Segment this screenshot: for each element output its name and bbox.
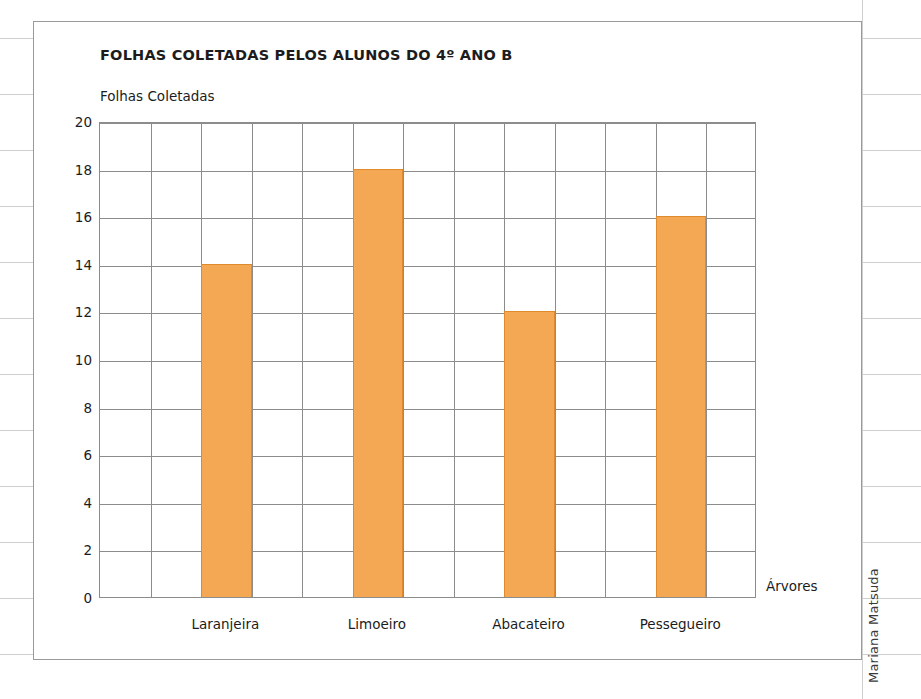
gridline-vertical [403,123,404,597]
y-axis-tick-label: 2 [83,542,92,558]
chart-card: FOLHAS COLETADAS PELOS ALUNOS DO 4º ANO … [33,21,862,660]
bar [656,216,707,597]
bar [201,264,252,597]
y-axis-tick-labels: 02468101214161820 [64,122,92,598]
y-axis-tick-label: 4 [83,495,92,511]
gridline-vertical [555,123,556,597]
gridline-vertical [605,123,606,597]
y-axis-tick-label: 14 [75,257,92,273]
y-axis-tick-label: 12 [75,304,92,320]
image-credit: Mariana Matsuda [866,503,884,683]
y-axis-tick-label: 8 [83,400,92,416]
y-axis-tick-label: 20 [75,114,92,130]
y-axis-tick-label: 0 [83,590,92,606]
gridline-vertical [302,123,303,597]
x-axis-category-label: Limoeiro [348,616,406,632]
x-axis-category-label: Abacateiro [492,616,565,632]
plot-area [99,122,756,598]
x-axis-category-labels: LaranjeiraLimoeiroAbacateiroPessegueiro [99,616,756,640]
bar [504,311,555,597]
y-axis-tick-label: 18 [75,162,92,178]
y-axis-title: Folhas Coletadas [100,88,215,104]
x-axis-category-label: Laranjeira [191,616,259,632]
x-axis-category-label: Pessegueiro [640,616,721,632]
gridline-vertical [151,123,152,597]
gridline-vertical [454,123,455,597]
y-axis-tick-label: 10 [75,352,92,368]
y-axis-tick-label: 16 [75,209,92,225]
y-axis-tick-label: 6 [83,447,92,463]
bar [353,169,404,597]
page-rule-line [862,0,863,699]
x-axis-title: Árvores [766,578,818,594]
page-title: FOLHAS COLETADAS PELOS ALUNOS DO 4º ANO … [100,47,513,63]
scanned-page: FOLHAS COLETADAS PELOS ALUNOS DO 4º ANO … [0,0,921,699]
gridline-vertical [252,123,253,597]
gridline-vertical [706,123,707,597]
